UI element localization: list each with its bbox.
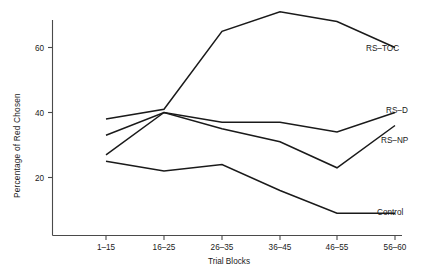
y-tick-label-20: 20 bbox=[35, 174, 45, 183]
series-line-control bbox=[106, 161, 395, 213]
x-axis-tick-labels: 1–15 16–25 26–35 36–45 46–55 56–60 bbox=[97, 243, 407, 252]
series-label-control: Control bbox=[377, 208, 404, 217]
x-tick-label-3: 26–35 bbox=[211, 243, 234, 252]
line-chart: Percentage of Red Chosen 60 40 20 1–15 bbox=[0, 0, 426, 270]
series-group bbox=[106, 12, 395, 214]
x-tick-label-4: 36–45 bbox=[269, 243, 292, 252]
series-label-rs-np: RS–NP bbox=[381, 136, 409, 145]
x-axis-title: Trial Blocks bbox=[208, 257, 250, 266]
series-line-rs-toc bbox=[106, 12, 395, 119]
x-tick-label-1: 1–15 bbox=[97, 243, 116, 252]
y-tick-label-60: 60 bbox=[35, 44, 45, 53]
series-label-rs-toc: RS–TOC bbox=[366, 44, 399, 53]
plot-area: 60 40 20 1–15 16–25 26–35 36–45 46–55 56… bbox=[0, 0, 426, 270]
x-tick-label-6: 56–60 bbox=[384, 243, 407, 252]
y-axis-tick-labels: 60 40 20 bbox=[35, 44, 45, 183]
series-line-rs-np bbox=[106, 113, 395, 168]
series-label-rs-d: RS–D bbox=[386, 106, 408, 115]
y-tick-label-40: 40 bbox=[35, 109, 45, 118]
y-axis-ticks bbox=[48, 48, 53, 178]
x-axis-ticks bbox=[106, 236, 395, 241]
x-tick-label-2: 16–25 bbox=[153, 243, 176, 252]
x-tick-label-5: 46–55 bbox=[326, 243, 349, 252]
